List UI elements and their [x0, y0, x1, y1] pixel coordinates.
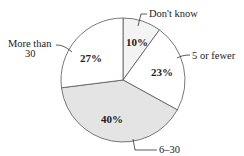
- label-more-than-30-line2: 30: [25, 48, 36, 59]
- slice-pct-more-than-30: 27%: [80, 52, 102, 64]
- slice-pct-dont-know: 10%: [126, 36, 148, 48]
- label-dont-know: Don't know: [149, 8, 198, 19]
- slice-pct-6-30: 40%: [101, 113, 123, 125]
- label-5-or-fewer: 5 or fewer: [192, 50, 236, 61]
- pie-slices: [61, 18, 185, 142]
- label-6-30: 6–30: [159, 144, 180, 155]
- slice-pct-5-or-fewer: 23%: [151, 66, 173, 78]
- pie-chart: 10% 23% 40% 27% Don't know 5 or fewer 6–…: [0, 0, 244, 156]
